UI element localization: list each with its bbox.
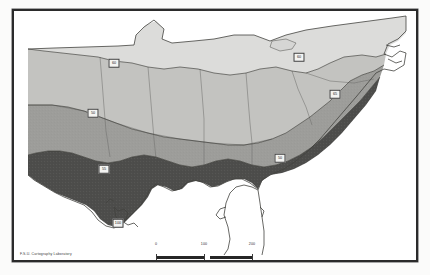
- map-neatline-frame: 60 60 65 50 55 50 100 0 100 200: [12, 9, 418, 262]
- contour-label-50-se: 50: [275, 154, 286, 163]
- contour-label-65-coast: 65: [330, 90, 341, 99]
- contour-label-100-delta: 100: [113, 219, 124, 228]
- map-figure: 60 60 65 50 55 50 100 0 100 200: [0, 0, 430, 275]
- contour-label-60-north: 60: [109, 59, 120, 68]
- scale-tick-label-0: 0: [155, 242, 157, 246]
- scale-bar: 0 100 200 Miles: [156, 243, 252, 260]
- contour-label-60-east: 60: [294, 53, 305, 62]
- scale-bar-track: [156, 256, 252, 259]
- scale-tick-label-200: 200: [249, 242, 256, 246]
- contour-label-50-west: 50: [88, 109, 99, 118]
- contour-label-55-gulf: 55: [99, 165, 110, 174]
- map-graphic: [14, 11, 416, 260]
- scale-bar-labels: 0 100 200: [156, 243, 252, 250]
- scale-tick-label-100: 100: [201, 242, 208, 246]
- cartography-credit: F.S.U. Cartography Laboratory: [20, 252, 72, 256]
- map-plate: 60 60 65 50 55 50 100 0 100 200: [14, 11, 416, 260]
